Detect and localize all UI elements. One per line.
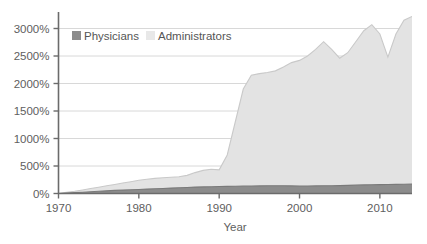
legend-swatch-physicians <box>72 31 81 40</box>
y-axis-tick-label: 0% <box>33 188 50 200</box>
legend-swatch-administrators <box>146 31 155 40</box>
legend-label-administrators: Administrators <box>158 30 232 42</box>
x-axis-tick-label: 1970 <box>46 202 72 214</box>
y-axis-tick-label: 1000% <box>14 133 50 145</box>
y-axis-tick-label: 3000% <box>14 23 50 35</box>
x-axis-tick-label: 1980 <box>126 202 152 214</box>
legend-label-physicians: Physicians <box>84 30 139 42</box>
chart-container: 0%500%1000%1500%2000%2500%3000% 19701980… <box>0 0 427 244</box>
y-axis-tick-label: 2000% <box>14 78 50 90</box>
y-axis-tick-label: 500% <box>20 160 49 172</box>
x-axis-tick-label: 1990 <box>206 202 232 214</box>
y-axis-tick-label: 1500% <box>14 105 50 117</box>
growth-area-chart: 0%500%1000%1500%2000%2500%3000% 19701980… <box>0 0 427 244</box>
x-axis-tick-label: 2000 <box>287 202 313 214</box>
x-axis-title: Year <box>223 221 246 233</box>
chart-legend: Physicians Administrators <box>72 30 232 42</box>
x-axis-tick-label: 2010 <box>367 202 393 214</box>
y-axis-tick-label: 2500% <box>14 50 50 62</box>
